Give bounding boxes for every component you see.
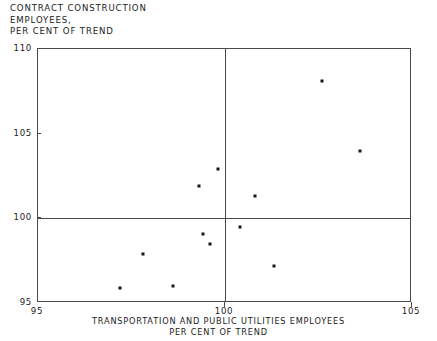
y-axis-title-line-3: PER CENT OF TREND: [10, 26, 147, 38]
y-axis-tick: [37, 217, 41, 218]
data-point: [272, 264, 275, 267]
x-axis-title-line-2: PER CENT OF TREND: [0, 327, 437, 338]
x-axis-title: TRANSPORTATION AND PUBLIC UTILITIES EMPL…: [0, 316, 437, 337]
data-point: [171, 285, 174, 288]
x-axis-title-line-1: TRANSPORTATION AND PUBLIC UTILITIES EMPL…: [0, 316, 437, 327]
y-axis-tick-label: 105: [2, 128, 32, 138]
data-point: [197, 185, 200, 188]
data-point: [216, 168, 219, 171]
y-axis-title: CONTRACT CONSTRUCTION EMPLOYEES, PER CEN…: [10, 3, 147, 38]
reference-line-vertical-100: [225, 49, 226, 301]
y-axis-tick-label: 110: [2, 43, 32, 53]
y-axis-tick: [37, 133, 41, 134]
x-axis-tick-label: 105: [391, 306, 431, 316]
data-point: [253, 195, 256, 198]
data-point: [119, 286, 122, 289]
data-point: [358, 149, 361, 152]
data-point: [141, 252, 144, 255]
data-point: [209, 242, 212, 245]
plot-area: [37, 48, 411, 302]
data-point: [321, 80, 324, 83]
x-axis-tick-label: 95: [17, 306, 57, 316]
y-axis-title-line-2: EMPLOYEES,: [10, 15, 147, 27]
data-point: [238, 225, 241, 228]
reference-line-horizontal-100: [38, 218, 410, 219]
x-axis-tick-label: 100: [204, 306, 244, 316]
y-axis-title-line-1: CONTRACT CONSTRUCTION: [10, 3, 147, 15]
y-axis-tick-label: 100: [2, 212, 32, 222]
data-point: [201, 232, 204, 235]
scatter-chart-figure: CONTRACT CONSTRUCTION EMPLOYEES, PER CEN…: [0, 0, 437, 341]
